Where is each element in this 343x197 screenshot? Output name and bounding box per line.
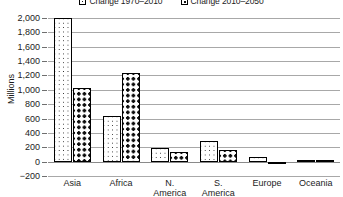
- bar-s-america-series2: [219, 150, 237, 161]
- y-tick-label-200: 200: [25, 142, 40, 152]
- y-tick-label-1800: 1,800: [17, 27, 40, 37]
- gridline--200: [48, 176, 340, 177]
- legend-label-change-2010-2050: Change 2010–2050: [191, 0, 264, 6]
- legend-swatch-large-dots-icon: [181, 0, 188, 5]
- bar-n-america-series2: [170, 152, 188, 161]
- y-tick-label-400: 400: [25, 128, 40, 138]
- bar-s-america-series1: [200, 141, 218, 162]
- bar-oceania-series1: [297, 160, 315, 162]
- y-tick-1800: [42, 32, 47, 33]
- bar-asia-series2: [73, 88, 91, 161]
- bar-asia-series1: [54, 18, 72, 162]
- y-tick-label-1400: 1,400: [17, 56, 40, 66]
- x-axis-label-s-america: S.America: [190, 179, 246, 197]
- y-tick--200: [42, 176, 47, 177]
- y-tick-label-1000: 1,000: [17, 85, 40, 95]
- bar-group-n-america: [145, 18, 194, 176]
- y-tick-1200: [42, 75, 47, 76]
- x-axis-label-europe: Europe: [239, 179, 295, 189]
- bar-group-africa: [97, 18, 146, 176]
- legend-item-change-1970-2010: Change 1970–2010: [79, 0, 162, 6]
- bar-group-s-america: [194, 18, 243, 176]
- x-axis-label-africa: Africa: [93, 179, 149, 189]
- y-tick-1400: [42, 61, 47, 62]
- y-tick-label--200: −200: [20, 171, 40, 181]
- y-tick-label-0: 0: [35, 157, 40, 167]
- bar-chart: Change 1970–2010 Change 2010–2050 Millio…: [0, 0, 343, 197]
- y-tick-0: [42, 162, 47, 163]
- bar-africa-series2: [122, 73, 140, 161]
- x-axis-label-n-america: N.America: [142, 179, 198, 197]
- bar-africa-series1: [103, 116, 121, 162]
- y-tick-1600: [42, 47, 47, 48]
- y-tick-2000: [42, 18, 47, 19]
- y-tick-label-2000: 2,000: [17, 13, 40, 23]
- y-tick-label-1600: 1,600: [17, 42, 40, 52]
- legend-swatch-small-dots-icon: [79, 0, 86, 5]
- legend-item-change-2010-2050: Change 2010–2050: [181, 0, 264, 6]
- y-tick-label-1200: 1,200: [17, 70, 40, 80]
- bar-europe-series1: [249, 157, 267, 161]
- bar-group-europe: [243, 18, 292, 176]
- x-axis-label-oceania: Oceania: [288, 179, 343, 189]
- x-axis-label-asia: Asia: [44, 179, 100, 189]
- y-tick-200: [42, 147, 47, 148]
- bar-europe-series2: [268, 162, 286, 164]
- bar-group-asia: [48, 18, 97, 176]
- y-tick-600: [42, 119, 47, 120]
- y-tick-1000: [42, 90, 47, 91]
- chart-legend: Change 1970–2010 Change 2010–2050: [0, 0, 343, 6]
- y-tick-400: [42, 133, 47, 134]
- x-axis-labels: AsiaAfricaN.AmericaS.AmericaEuropeOceani…: [48, 179, 340, 197]
- y-tick-label-600: 600: [25, 114, 40, 124]
- plot-area: 2,0001,8001,6001,4001,2001,0008006004002…: [48, 18, 340, 176]
- y-tick-label-800: 800: [25, 99, 40, 109]
- legend-label-change-1970-2010: Change 1970–2010: [89, 0, 162, 6]
- y-tick-800: [42, 104, 47, 105]
- bar-oceania-series2: [316, 160, 334, 162]
- y-axis-title: Millions: [6, 59, 16, 119]
- bars-layer: [48, 18, 340, 176]
- bar-n-america-series1: [151, 148, 169, 162]
- bar-group-oceania: [291, 18, 340, 176]
